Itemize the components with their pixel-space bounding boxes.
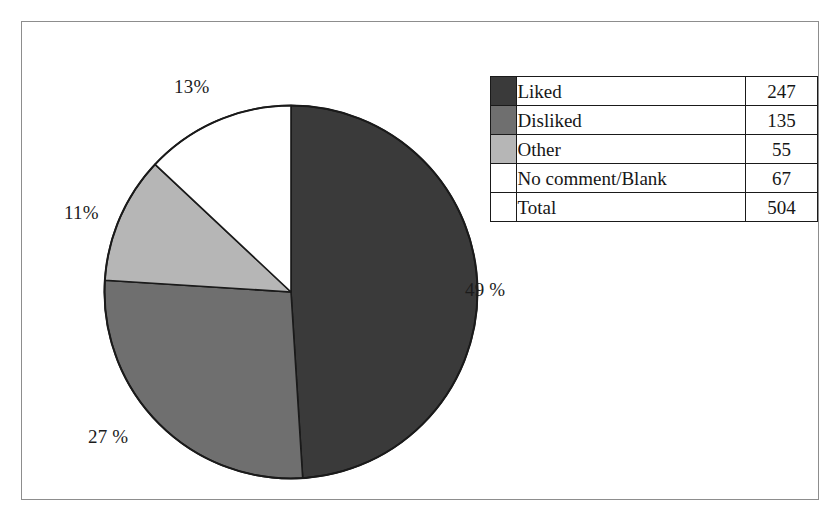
legend-value-disliked: 135 bbox=[745, 106, 817, 135]
legend-label-no-comment-blank: No comment/Blank bbox=[517, 164, 745, 193]
legend-value-total: 504 bbox=[745, 193, 817, 222]
legend-swatch-cell-liked bbox=[491, 77, 517, 106]
pie-label-disliked: 27 % bbox=[88, 426, 128, 448]
color-swatch-liked bbox=[491, 77, 516, 105]
legend-swatch-cell-no-comment-blank bbox=[491, 164, 517, 193]
legend-label-liked: Liked bbox=[517, 77, 745, 106]
table-row: Liked 247 bbox=[491, 77, 818, 106]
table-row: No comment/Blank 67 bbox=[491, 164, 818, 193]
table-row-total: Total 504 bbox=[491, 193, 818, 222]
color-swatch-disliked bbox=[491, 106, 516, 134]
legend-label-other: Other bbox=[517, 135, 745, 164]
legend-swatch-cell-empty bbox=[491, 193, 517, 222]
pie-label-liked: 49 % bbox=[465, 279, 505, 301]
legend-label-total: Total bbox=[517, 193, 745, 222]
pie-chart-svg bbox=[103, 104, 479, 480]
figure-frame: 13% 11% 27 % 49 % Liked 247 Disliked 135 bbox=[21, 21, 819, 500]
pie-slice-group bbox=[105, 106, 478, 479]
color-swatch-no-comment-blank bbox=[491, 164, 516, 192]
legend-value-other: 55 bbox=[745, 135, 817, 164]
pie-label-no-comment-blank: 13% bbox=[174, 76, 209, 98]
legend-swatch-cell-disliked bbox=[491, 106, 517, 135]
legend-swatch-cell-other bbox=[491, 135, 517, 164]
table-row: Other 55 bbox=[491, 135, 818, 164]
pie-label-other: 11% bbox=[64, 202, 99, 224]
color-swatch-other bbox=[491, 135, 516, 163]
pie-chart bbox=[103, 104, 479, 480]
legend-value-liked: 247 bbox=[745, 77, 817, 106]
pie-slice-liked bbox=[291, 106, 477, 479]
table-row: Disliked 135 bbox=[491, 106, 818, 135]
legend-label-disliked: Disliked bbox=[517, 106, 745, 135]
legend-value-no-comment-blank: 67 bbox=[745, 164, 817, 193]
legend-table: Liked 247 Disliked 135 Other 55 bbox=[490, 76, 818, 222]
pie-slice-disliked bbox=[105, 280, 303, 478]
